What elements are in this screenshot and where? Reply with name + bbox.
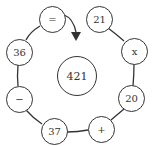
- node-20: 20: [118, 85, 145, 112]
- node-21: 21: [86, 6, 113, 33]
- node-plus: +: [88, 116, 115, 143]
- node-times: x: [121, 38, 148, 65]
- node-37: 37: [41, 118, 68, 145]
- node-36: 36: [6, 39, 33, 66]
- node-minus: −: [6, 86, 33, 113]
- node-equals: =: [39, 6, 66, 33]
- arrow-head-icon: [71, 32, 81, 41]
- center-result-node: 421: [57, 56, 97, 96]
